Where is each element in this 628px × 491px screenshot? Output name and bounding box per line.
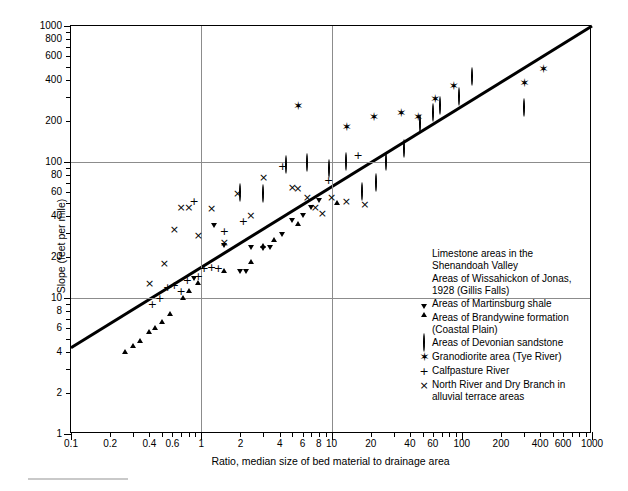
x-tick-90 [456,432,457,437]
legend-item-0[interactable]: Limestone areas in the Shenandoah Valley [418,248,588,271]
marker-cross: × [207,204,216,211]
legend-item-4[interactable]: Areas of Devonian sandstone [418,337,588,349]
y-tick-label-60: 60 [51,187,62,197]
y-tick-label-6: 6 [56,323,62,333]
legend-item-7[interactable]: ×North River and Dry Branch in alluvial … [418,379,588,402]
y-tick-90 [66,168,71,169]
marker-star: ✶ [519,80,528,87]
x-tick-6 [303,432,304,437]
x-tick-label-6: 6 [300,439,306,449]
y-tick-30 [66,233,71,234]
legend-label: Areas of Martinsburg shale [432,298,552,310]
y-tick-label-20: 20 [51,252,62,262]
marker-plus: + [155,295,164,302]
x-tick-label-40: 40 [404,439,415,449]
x-tick-0.4 [149,432,150,437]
y-tick-300 [66,97,71,98]
x-tick-900 [586,432,587,437]
x-tick-label-10: 10 [326,439,337,449]
x-tick-800 [579,432,580,437]
legend-label: Calfpasture River [432,365,509,377]
x-tick-7 [311,432,312,437]
x-tick-label-0.6: 0.6 [165,439,179,449]
x-tick-label-60: 60 [427,439,438,449]
y-tick-3 [66,369,71,370]
marker-plus: + [183,277,192,284]
legend-item-3[interactable]: Areas of Brandywine formation (Coastal P… [418,312,588,335]
footer-rule [28,478,128,480]
x-tick-40 [410,432,411,437]
y-tick-label-40: 40 [51,211,62,221]
marker-star: ✶ [420,354,429,361]
y-tick-label-1000: 1000 [40,21,62,31]
marker-star: ✶ [369,113,378,120]
y-tick-8 [66,311,71,312]
x-tick-0.2 [110,432,111,437]
marker-star: ✶ [396,109,405,116]
x-tick-5 [292,432,293,437]
legend-marker-filled-circle [418,248,432,260]
legend-marker-filled-down-triangle [418,312,432,324]
y-tick-label-400: 400 [45,75,62,85]
marker-cross: × [342,197,351,204]
y-tick-label-1: 1 [56,429,62,439]
x-tick-70 [442,432,443,437]
y-tick-label-100: 100 [45,157,62,167]
y-tick-label-8: 8 [56,306,62,316]
marker-plus: + [214,265,223,272]
x-tick-30 [394,432,395,437]
marker-cross: × [246,211,255,218]
y-tick-label-600: 600 [45,51,62,61]
x-tick-label-1000: 1000 [581,439,603,449]
y-tick-60 [66,192,71,193]
marker-plus: + [354,151,363,158]
y-tick-400 [66,80,71,81]
x-tick-0.3 [133,432,134,437]
marker-cross: × [220,238,229,245]
legend-item-5[interactable]: ✶Granodiorite area (Tye River) [418,351,588,363]
marker-star: ✶ [413,113,422,120]
x-tick-label-0.2: 0.2 [103,439,117,449]
marker-plus: + [324,176,333,183]
x-tick-label-200: 200 [493,439,510,449]
y-tick-500 [66,67,71,68]
marker-cross: × [259,173,268,180]
y-tick-6 [66,328,71,329]
y-tick-2 [66,393,71,394]
marker-cross: × [233,190,242,197]
marker-plus: + [177,288,186,295]
legend-label: North River and Dry Branch in alluvial t… [432,379,588,402]
y-tick-1 [64,434,71,435]
y-tick-40 [66,216,71,217]
y-tick-20 [66,257,71,258]
marker-cross: × [170,226,179,233]
legend-marker-filled-square [418,273,432,285]
legend-marker-star: ✶ [418,351,432,363]
legend-item-6[interactable]: +Calfpasture River [418,365,588,377]
y-tick-600 [66,56,71,57]
x-tick-label-600: 600 [555,439,572,449]
x-tick-label-0.1: 0.1 [64,439,78,449]
x-axis-title: Ratio, median size of bed material to dr… [70,455,591,467]
x-tick-300 [524,432,525,437]
y-tick-800 [66,39,71,40]
y-tick-7 [66,319,71,320]
y-tick-4 [66,352,71,353]
marker-cross: × [194,232,203,239]
marker-cross: × [327,194,336,201]
marker-cross: × [160,260,169,267]
x-tick-50 [423,432,424,437]
legend-item-2[interactable]: Areas of Martinsburg shale [418,298,588,310]
y-tick-900 [66,32,71,33]
marker-cross: × [184,203,193,210]
x-tick-2 [240,432,241,437]
x-tick-400 [540,432,541,437]
y-tick-5 [66,339,71,340]
y-tick-100 [64,162,71,163]
x-tick-8 [319,432,320,437]
legend-item-1[interactable]: Areas of Wissahickon of Jonas, 1928 (Gil… [418,273,588,296]
legend-label: Granodiorite area (Tye River) [432,351,562,363]
marker-star: ✶ [538,66,547,73]
marker-cross: × [360,201,369,208]
x-tick-3 [263,432,264,437]
